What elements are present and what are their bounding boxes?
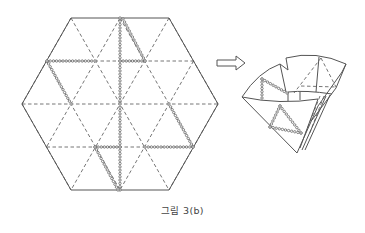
- dotted-fold-lines: [46, 17, 194, 191]
- folded-model: [242, 55, 346, 153]
- figure-caption: 그림 3(b): [0, 203, 365, 217]
- hexagon-crease-pattern: [22, 17, 218, 191]
- folded-dotted-lines: [261, 78, 302, 134]
- right-arrow-icon: [217, 56, 245, 70]
- origami-diagram: [0, 0, 365, 233]
